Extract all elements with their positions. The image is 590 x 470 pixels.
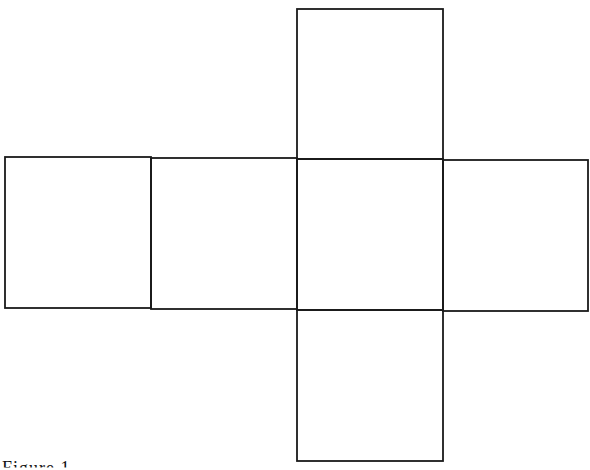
cube-face-row-1 — [5, 157, 151, 308]
cube-net-faces — [5, 9, 588, 461]
cube-face-row-4 — [443, 160, 588, 311]
cube-net-diagram — [0, 0, 590, 470]
cube-face-bottom — [297, 310, 443, 461]
cube-face-top — [297, 9, 443, 159]
cube-face-row-3-center — [297, 159, 443, 310]
cube-face-row-2 — [151, 158, 297, 309]
